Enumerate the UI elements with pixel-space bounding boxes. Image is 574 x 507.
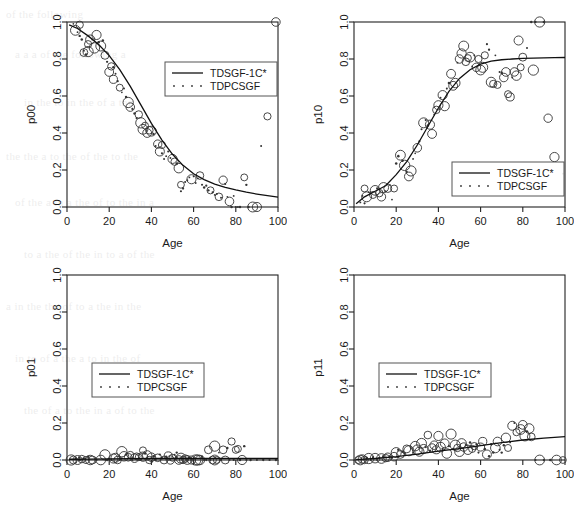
y-tick-label: 0.8: [51, 304, 63, 319]
data-point-dot: [144, 452, 146, 454]
data-point-dot: [224, 183, 226, 185]
data-point-ring: [500, 73, 509, 82]
y-tick-label: 0.4: [338, 125, 350, 140]
data-point-ring: [514, 36, 523, 45]
data-point-dot: [499, 449, 501, 451]
legend-label-tdpcsgf: TDPCSGF: [210, 80, 260, 92]
data-point-ring: [544, 114, 552, 122]
x-tick-label: 80: [517, 468, 529, 480]
data-point-dot: [205, 185, 207, 187]
y-tick-label: 0.2: [338, 162, 350, 177]
x-tick-label: 20: [103, 468, 115, 480]
data-point-dot: [245, 459, 247, 461]
data-point-dot: [543, 21, 546, 24]
data-point-dot: [239, 206, 241, 208]
x-tick-label: 20: [390, 215, 402, 227]
data-point-ring: [519, 53, 527, 61]
x-tick-label: 60: [474, 468, 486, 480]
y-axis-title: p10: [312, 105, 324, 124]
data-point-dot: [228, 459, 230, 461]
legend-label-tdpcsgf: TDPCSGF: [137, 381, 187, 393]
data-point-dot: [78, 35, 80, 37]
data-point-ring: [440, 439, 449, 448]
data-point-dot: [180, 190, 182, 192]
x-tick-label: 0: [351, 215, 357, 227]
data-point-dot: [359, 201, 361, 203]
data-point-dot: [193, 176, 195, 178]
data-point-dot: [182, 187, 184, 189]
data-point-ring: [101, 51, 109, 59]
data-point-dot: [414, 153, 416, 155]
data-point-ring: [502, 68, 511, 77]
y-tick-label: 0.6: [338, 341, 350, 356]
data-point-ring: [228, 438, 235, 445]
fitted-curve-tdsgf-1c: [69, 459, 278, 460]
data-point-ring: [361, 185, 368, 192]
x-tick-label: 20: [390, 468, 402, 480]
plot-panel-p11: 0.00.20.40.60.81.0020406080100Agep11TDSG…: [287, 253, 574, 507]
y-tick-label: 0.4: [51, 125, 63, 140]
data-point-dot: [412, 158, 414, 160]
x-tick-label: 100: [556, 468, 574, 480]
data-point-dot: [549, 459, 551, 461]
data-point-dot: [233, 459, 235, 461]
y-axis-title: p00: [25, 105, 37, 124]
data-point-dot: [102, 39, 104, 41]
data-point-dot: [220, 197, 222, 199]
data-point-ring: [505, 91, 512, 98]
data-point-dot: [363, 202, 365, 204]
data-point-dot: [425, 446, 427, 448]
data-point-dot: [131, 108, 133, 110]
data-point-dot: [174, 454, 176, 456]
data-point-ring: [92, 30, 101, 39]
data-point-dot: [501, 451, 503, 453]
data-point-dot: [477, 452, 479, 454]
legend: TDSGF-1C*TDPCSGF: [165, 62, 277, 96]
data-point-dot: [72, 23, 74, 25]
data-point-dot: [420, 128, 422, 130]
data-point-dot: [469, 441, 472, 444]
data-point-dot: [115, 73, 117, 75]
data-point-dot: [513, 422, 515, 424]
data-point-dot: [207, 189, 209, 191]
data-point-ring: [264, 113, 271, 120]
x-tick-label: 60: [474, 215, 486, 227]
data-point-dot: [205, 459, 207, 461]
data-point-dot: [77, 31, 79, 33]
data-point-dot: [106, 61, 108, 63]
data-point-ring: [493, 437, 502, 446]
data-point-dot: [226, 447, 228, 449]
legend-dot-key: [109, 386, 111, 388]
data-point-dot: [165, 155, 167, 157]
data-point-dot: [256, 459, 258, 461]
y-tick-label: 1.0: [51, 14, 63, 29]
data-point-dot: [159, 453, 161, 455]
data-point-dot: [235, 206, 237, 208]
y-tick-label: 0.0: [51, 199, 63, 214]
x-tick-label: 80: [230, 215, 242, 227]
data-point-dot: [112, 66, 114, 68]
data-point-ring: [505, 444, 512, 451]
data-point-ring: [219, 176, 227, 184]
data-point-ring: [406, 166, 416, 176]
plot-panel-p01: 0.00.20.40.60.81.0020406080100Agep01TDSG…: [0, 253, 287, 507]
x-tick-label: 0: [64, 215, 70, 227]
x-tick-label: 60: [187, 215, 199, 227]
data-point-ring: [424, 431, 432, 439]
legend-dot-key: [478, 185, 480, 187]
data-point-dot: [201, 456, 203, 458]
data-point-dot: [245, 184, 247, 186]
legend-dot-key: [396, 386, 398, 388]
y-tick-label: 0.4: [338, 378, 350, 393]
plot-panel-p00: 0.00.20.40.60.81.0020406080100Agep00TDSG…: [0, 0, 287, 254]
data-point-ring: [517, 64, 524, 71]
data-point-ring: [396, 150, 406, 160]
chart-canvas-p00: 0.00.20.40.60.81.0020406080100Agep00TDSG…: [0, 0, 287, 254]
data-point-ring: [225, 197, 234, 206]
y-tick-label: 0.2: [338, 415, 350, 430]
data-point-dot: [486, 43, 488, 45]
data-point-dot: [169, 157, 171, 159]
scatter-points-tdpcsgf: [66, 438, 277, 465]
x-tick-label: 100: [269, 215, 287, 227]
data-point-dot: [237, 206, 239, 208]
